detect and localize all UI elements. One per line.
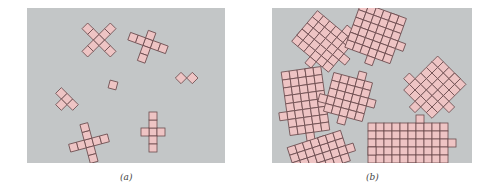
cell: [337, 115, 347, 125]
cell: [303, 108, 312, 117]
cell: [376, 147, 384, 155]
shape-small-diagonal: [50, 88, 78, 116]
cell: [288, 119, 297, 128]
cell: [416, 131, 424, 139]
cell: [440, 155, 448, 163]
cell: [292, 94, 301, 103]
cell: [321, 122, 330, 131]
shape-x-diagonal: [71, 12, 128, 69]
cell: [424, 147, 432, 155]
cell: [175, 72, 186, 83]
cell: [289, 70, 298, 79]
cell: [313, 123, 322, 132]
cell: [69, 142, 79, 152]
cell: [308, 91, 317, 100]
cell: [400, 147, 408, 155]
cell: [287, 111, 296, 120]
cell: [141, 128, 149, 136]
cell: [408, 123, 416, 131]
cell: [376, 131, 384, 139]
cell: [432, 155, 440, 163]
cell: [311, 107, 320, 116]
cell: [306, 76, 315, 85]
cell: [149, 136, 157, 144]
cell: [300, 93, 309, 102]
cell: [100, 134, 110, 144]
cell: [305, 68, 314, 77]
cell: [400, 131, 408, 139]
cell: [432, 123, 440, 131]
cell: [294, 102, 303, 111]
cell: [400, 123, 408, 131]
cell: [384, 147, 392, 155]
cell: [416, 155, 424, 163]
cell: [299, 85, 308, 94]
cell: [432, 139, 440, 147]
cell: [366, 98, 376, 108]
cell: [408, 131, 416, 139]
cell: [400, 139, 408, 147]
cell: [376, 155, 384, 163]
cell: [368, 123, 376, 131]
cell: [400, 155, 408, 163]
cell: [424, 131, 432, 139]
cell: [424, 155, 432, 163]
cell: [432, 147, 440, 155]
cell: [315, 82, 324, 91]
cell: [307, 84, 316, 93]
cell: [290, 78, 299, 87]
cell: [157, 128, 165, 136]
cell: [357, 71, 367, 81]
cell: [318, 94, 328, 104]
cell: [312, 115, 321, 124]
caption-a: (a): [120, 172, 132, 182]
shape-cross-tilted: [122, 25, 171, 69]
caption-b: (b): [366, 172, 379, 182]
cell: [297, 125, 306, 134]
cell: [392, 123, 400, 131]
cell: [279, 112, 288, 121]
cell: [448, 139, 456, 147]
cell: [424, 139, 432, 147]
cell: [314, 74, 323, 83]
cell: [149, 144, 157, 152]
cell: [408, 147, 416, 155]
cell: [149, 120, 157, 128]
panel-a-sparse-shapes: [27, 8, 225, 163]
cell: [392, 147, 400, 155]
cell: [392, 155, 400, 163]
cell: [80, 123, 90, 133]
cell: [368, 131, 376, 139]
cell: [368, 139, 376, 147]
cell: [440, 139, 448, 147]
cell: [309, 99, 318, 108]
cell: [384, 139, 392, 147]
cell: [283, 87, 292, 96]
cell: [305, 124, 314, 133]
cell: [432, 131, 440, 139]
cell: [368, 147, 376, 155]
cell: [295, 110, 304, 119]
cell: [296, 117, 305, 126]
shape-cross-upright: [141, 112, 165, 152]
cell: [149, 112, 157, 120]
cell: [384, 155, 392, 163]
panel-a-canvas: [27, 8, 225, 163]
cell: [416, 147, 424, 155]
cell: [408, 155, 416, 163]
shape-blob-right: [392, 50, 471, 129]
cell: [286, 103, 295, 112]
cell: [285, 95, 294, 104]
cell: [298, 77, 307, 86]
cell: [408, 139, 416, 147]
cell: [376, 139, 384, 147]
cell: [384, 123, 392, 131]
cell: [304, 116, 313, 125]
cell: [416, 115, 424, 123]
cell: [187, 72, 198, 83]
cell: [440, 123, 448, 131]
shape-blob-bottom-right: [368, 115, 456, 163]
cell: [416, 139, 424, 147]
cell: [88, 154, 98, 163]
cell: [440, 147, 448, 155]
